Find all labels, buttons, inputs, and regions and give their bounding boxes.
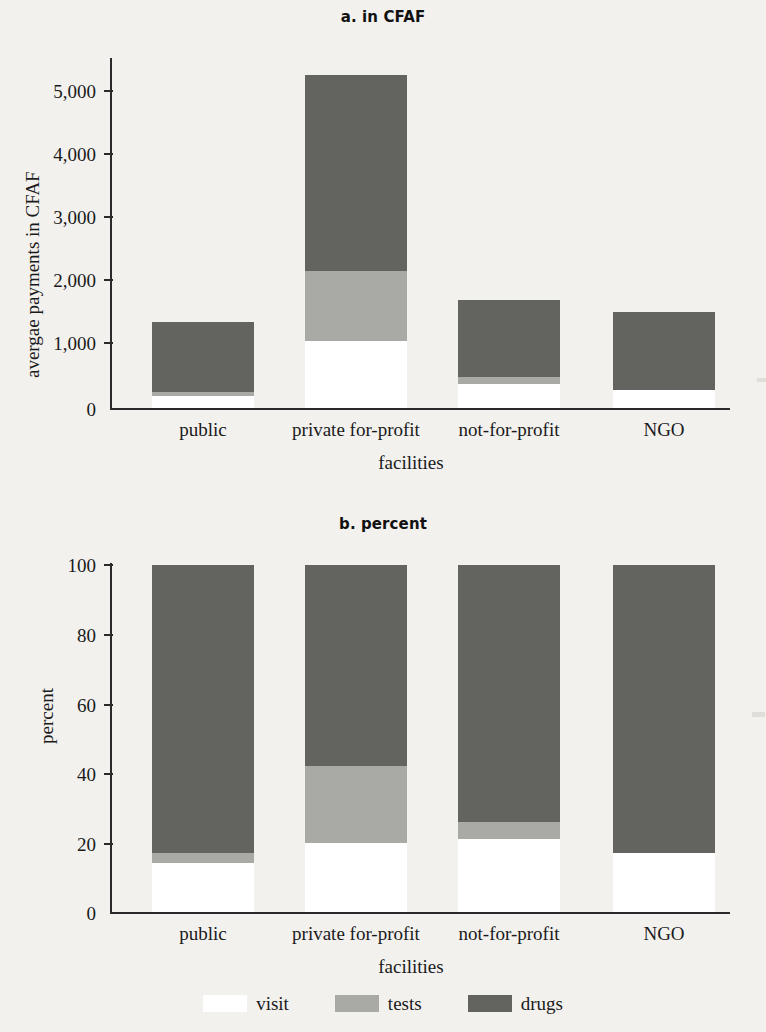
panel-b-bar-public [152,500,254,912]
panel-a-ytick-4000 [104,153,113,155]
panel-a-plot-area: 5,000 4,000 3,000 2,000 1,000 0 public p… [0,0,766,500]
bar-segment-visit [305,341,407,408]
panel-a-y-axis [110,58,112,410]
panel-a-ytick-2000 [104,279,113,281]
bar-segment-tests [152,392,254,396]
panel-a-yticklabel-5000: 5,000 [20,82,96,101]
bar-segment-drugs [613,312,715,389]
panel-a-bar-private-for-profit [305,0,407,408]
bar-segment-visit [305,843,407,913]
legend-swatch-drugs-icon [468,995,512,1012]
panel-b-yticklabel-100: 100 [20,556,96,575]
panel-a-ytick-5000 [104,90,113,92]
panel-a-xlabel-public: public [143,420,263,439]
bar-segment-tests [305,766,407,842]
panel-b-xlabel-private-for-profit: private for-profit [266,924,446,943]
panel-a-yticklabel-1000: 1,000 [20,334,96,353]
panel-a-x-axis-title: facilities [28,452,766,474]
panel-a-yticklabel-3000: 3,000 [20,208,96,227]
panel-a-yticklabel-0: 0 [20,400,96,419]
chart-legend: visit tests drugs [0,994,766,1013]
bar-segment-visit [152,863,254,912]
legend-label-tests: tests [388,994,422,1013]
panel-a-yticklabel-4000: 4,000 [20,145,96,164]
panel-b-xlabel-not-for-profit: not-for-profit [429,924,589,943]
panel-b-yticklabel-80: 80 [20,626,96,645]
panel-a-xlabel-private-for-profit: private for-profit [266,420,446,439]
panel-a-ytick-3000 [104,216,113,218]
panel-b-xlabel-ngo: NGO [604,924,724,943]
panel-b-ytick-60 [104,704,113,706]
panel-b-x-axis [110,912,730,914]
panel-a-ytick-1000 [104,342,113,344]
scan-artifact-right-top [757,378,766,382]
panel-a-bar-public [152,0,254,408]
scan-artifact-right-bottom [752,712,765,717]
panel-b-bar-not-for-profit [458,500,560,912]
bar-segment-tests [458,822,560,839]
bar-segment-tests [458,377,560,384]
bar-segment-visit [458,384,560,408]
panel-b-yticklabel-0: 0 [20,904,96,923]
panel-b-ytick-80 [104,634,113,636]
bar-segment-visit [458,839,560,912]
legend-label-visit: visit [256,994,289,1013]
bar-segment-tests [305,271,407,342]
panel-a-x-axis [110,408,730,410]
panel-a-xlabel-ngo: NGO [604,420,724,439]
panel-a-bar-ngo [613,0,715,408]
panel-a-yticklabel-2000: 2,000 [20,271,96,290]
legend-item-tests[interactable]: tests [335,994,422,1013]
panel-b-ytick-100 [104,564,113,566]
panel-a-xlabel-not-for-profit: not-for-profit [429,420,589,439]
bar-segment-drugs [305,75,407,270]
legend-item-drugs[interactable]: drugs [468,994,563,1013]
panel-b-bar-private-for-profit [305,500,407,912]
bar-segment-drugs [305,565,407,767]
panel-b-y-axis [110,563,112,912]
panel-b-xlabel-public: public [143,924,263,943]
bar-segment-drugs [152,322,254,392]
panel-a-figure: a. in CFAF avergae payments in CFAF 5,00… [0,0,766,500]
panel-b-bar-ngo [613,500,715,912]
bar-segment-drugs [613,565,715,853]
panel-a-bar-not-for-profit [458,0,560,408]
bar-segment-drugs [458,565,560,822]
bar-segment-visit [613,390,715,408]
legend-swatch-visit-icon [203,995,247,1012]
bar-segment-drugs [152,565,254,853]
bar-segment-tests [152,853,254,863]
bar-segment-visit [152,396,254,408]
legend-swatch-tests-icon [335,995,379,1012]
panel-b-yticklabel-40: 40 [20,765,96,784]
panel-b-ytick-40 [104,773,113,775]
panel-b-yticklabel-20: 20 [20,835,96,854]
legend-item-visit[interactable]: visit [203,994,289,1013]
panel-b-x-axis-title: facilities [28,956,766,978]
panel-b-ytick-20 [104,843,113,845]
panel-b-plot-area: 100 80 60 40 20 0 public private for-pro… [0,500,766,960]
bar-segment-drugs [458,300,560,377]
legend-label-drugs: drugs [521,994,563,1013]
panel-b-figure: b. percent percent 100 80 60 40 20 0 pub… [0,500,766,1032]
panel-b-yticklabel-60: 60 [20,696,96,715]
bar-segment-visit [613,853,715,912]
